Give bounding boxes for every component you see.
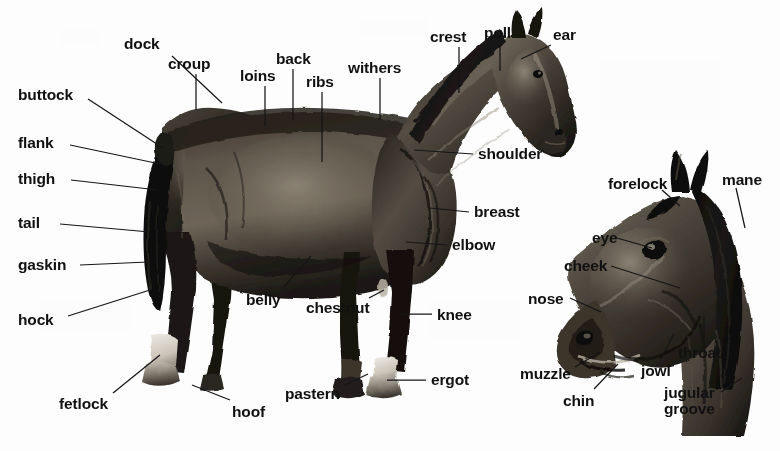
leader-thigh bbox=[71, 180, 158, 190]
label-chestnut: chestnut bbox=[306, 300, 369, 316]
label-fetlock: fetlock bbox=[59, 396, 108, 412]
leader-gaskin bbox=[80, 262, 148, 265]
label-throat: throat bbox=[678, 345, 721, 361]
leader-jowl bbox=[661, 333, 674, 359]
leader-chin bbox=[594, 364, 618, 389]
label-dock: dock bbox=[124, 36, 160, 52]
leader-flank bbox=[70, 145, 160, 164]
label-knee: knee bbox=[437, 307, 472, 323]
label-shoulder: shoulder bbox=[478, 146, 542, 162]
leader-belly bbox=[283, 256, 311, 288]
horse-anatomy-diagram: dockcrouploinsbackribswitherscrestpollea… bbox=[0, 0, 780, 451]
leader-fetlock bbox=[113, 355, 160, 393]
label-ribs: ribs bbox=[306, 74, 334, 90]
label-chin: chin bbox=[563, 393, 594, 409]
label-back: back bbox=[276, 51, 311, 67]
label-flank: flank bbox=[18, 135, 53, 151]
label-thigh: thigh bbox=[18, 171, 55, 187]
leader-pastern bbox=[345, 374, 368, 385]
label-breast: breast bbox=[474, 204, 520, 220]
label-hock: hock bbox=[18, 312, 54, 328]
leader-muzzle bbox=[575, 352, 600, 367]
label-elbow: elbow bbox=[452, 237, 495, 253]
leader-shoulder bbox=[414, 150, 473, 154]
leader-jugular_groove bbox=[721, 378, 742, 392]
label-forelock: forelock bbox=[608, 176, 667, 192]
leader-ear bbox=[521, 45, 551, 59]
leader-buttock bbox=[88, 99, 163, 148]
leader-cheek bbox=[611, 266, 680, 288]
leader-breast bbox=[430, 208, 469, 212]
label-tail: tail bbox=[18, 215, 40, 231]
label-nose: nose bbox=[528, 291, 564, 307]
leader-tail bbox=[60, 224, 150, 232]
leader-hock bbox=[68, 290, 150, 316]
label-ergot: ergot bbox=[431, 372, 469, 388]
leader-hoof bbox=[192, 385, 230, 400]
leader-eye bbox=[617, 238, 652, 248]
label-ear: ear bbox=[553, 27, 576, 43]
label-muzzle: muzzle bbox=[520, 366, 571, 382]
label-jugular_groove: jugular groove bbox=[664, 385, 715, 417]
label-gaskin: gaskin bbox=[18, 257, 66, 273]
label-poll: poll bbox=[484, 25, 511, 41]
leader-chestnut bbox=[369, 290, 384, 298]
label-loins: loins bbox=[240, 68, 275, 84]
label-jowl: jowl bbox=[641, 363, 671, 379]
leader-nose bbox=[570, 298, 601, 312]
label-withers: withers bbox=[348, 60, 401, 76]
label-buttock: buttock bbox=[18, 87, 73, 103]
label-belly: belly bbox=[246, 292, 281, 308]
label-crest: crest bbox=[430, 29, 466, 45]
label-croup: croup bbox=[168, 56, 210, 72]
leader-forelock bbox=[662, 190, 680, 206]
label-eye: eye bbox=[592, 230, 617, 246]
label-mane: mane bbox=[722, 172, 762, 188]
leader-elbow bbox=[406, 242, 447, 245]
label-pastern: pastern bbox=[285, 386, 340, 402]
label-hoof: hoof bbox=[232, 404, 265, 420]
label-cheek: cheek bbox=[564, 258, 607, 274]
leader-mane bbox=[736, 188, 745, 228]
